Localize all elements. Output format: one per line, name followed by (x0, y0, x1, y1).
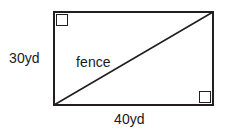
geometry-diagram: 30yd fence 40yd (0, 0, 227, 136)
height-label: 30yd (9, 50, 40, 66)
right-angle-marker-top-left-icon (56, 14, 68, 26)
diagonal-label: fence (75, 54, 112, 70)
width-label: 40yd (114, 111, 145, 127)
right-angle-marker-bottom-right-icon (199, 91, 211, 103)
